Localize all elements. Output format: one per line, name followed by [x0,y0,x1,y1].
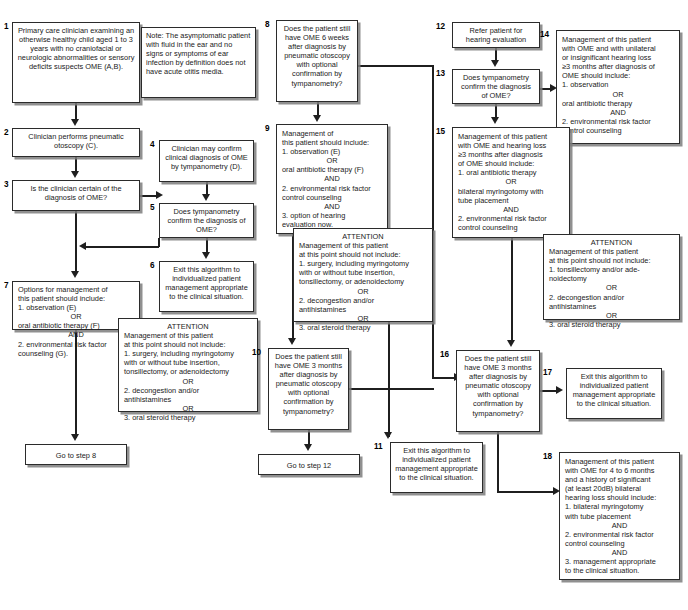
arrowhead-15-to-16 [507,340,515,347]
step-9-line: 2. environmental risk factor [282,184,371,193]
attention-left-line: tonsillectomy, or adenoidectomy [124,367,229,376]
box-number-9: 9 [265,124,270,133]
attention-right-line: 2. decongestion and/or [549,293,624,302]
attention-middle-line: Management of this patient [299,241,388,250]
step-18-line: AND [565,548,674,557]
box-number-14: 14 [540,30,549,39]
attention-left-line: at this point should not include: [124,340,225,349]
attention-right-line: ATTENTION [549,238,674,247]
step-15-line: bilateral myringotomy with [458,187,543,196]
step-18-line: AND [565,521,674,530]
step-15-line: tube placement [458,196,509,205]
connector-15-to-16 [511,238,513,343]
step-15-line: 1. oral antibiotic therapy [458,168,536,177]
box-number-10: 10 [252,348,261,357]
step-15-line: 2. environmental risk factor [458,214,547,223]
box-number-3: 3 [4,180,9,189]
step-13-box: Does tympanometry confirm the diagnosis … [452,69,540,104]
box-number-8: 8 [265,20,270,29]
step-9-line: AND [282,202,382,211]
flowchart-canvas: 1 Primary care clinician examining an ot… [0,0,688,610]
arrowhead-5-to-6 [202,252,210,259]
step-18-box: Management of this patient with OME for … [559,452,680,580]
step-14-line: oral antibiotic therapy [562,99,632,108]
step-12-box: Refer patient for hearing evaluation [452,22,540,48]
step-15-line: OR [458,177,564,186]
step-9-line: this patient should include: [282,138,369,147]
attention-right-line: at this point should not include: [549,256,650,265]
arrowhead-9-to-10 [288,338,296,345]
arrowhead-3-to-7 [71,271,79,278]
step-7-line: AND [18,330,134,339]
box-number-18: 18 [543,452,552,461]
step-18-line: 2. environmental risk factor [565,530,654,539]
step-9-line: control counseling [282,193,342,202]
arrowhead-16-to-17 [556,386,563,394]
attention-middle-line: antihistamines [299,305,346,314]
attention-middle-box: ATTENTION Management of this patient at … [293,228,433,322]
step-9-line: oral antibiotic therapy (F) [282,165,364,174]
step-15-line: ≥3 months after diagnosis [458,150,543,159]
connector-10-right [349,388,434,390]
step-15-line: with OME and hearing loss [458,141,546,150]
attention-left-line: with or without tube insertion, [124,358,220,367]
step-18-line: 3. management appropriate [565,557,656,566]
box-number-13: 13 [436,69,445,78]
connector-5-to-3 [85,246,159,248]
box-number-11: 11 [374,442,383,451]
arrowhead-5-to-3 [79,242,86,250]
attention-middle-line: 3. oral steroid therapy [299,323,370,332]
step-17-box: Exit this algorithm to individualized pa… [566,368,662,419]
connector-8-into-16 [432,377,456,379]
box-number-17: 17 [543,368,552,377]
step-9-line: OR [282,156,382,165]
connector-3-to-7 [75,211,77,274]
step-14-line: 2. environmental risk factor [562,117,651,126]
attention-left-line: 1. surgery, including myringotomy [124,349,234,358]
step-14-box: Management of this patient with OME and … [556,30,680,144]
step-14-line: control counseling [562,126,622,135]
arrowhead-to-11 [384,432,392,439]
step-18-line: to the clinical situation. [565,566,639,575]
go-to-step-8-box: Go to step 8 [25,444,127,465]
attention-left-line: 2. decongestion and/or [124,386,199,395]
attention-left-box: ATTENTION Management of this patient at … [118,318,258,412]
step-18-line: hearing loss should include: [565,493,656,502]
connector-5-down-stub [158,238,160,247]
step-3-box: Is the clinician certain of the diagnosi… [12,180,140,211]
attention-left-line: OR [124,377,252,386]
step-1-box: Primary care clinician examining an othe… [12,22,140,103]
step-9-line: AND [282,174,382,183]
step-14-line: Management of this patient [562,35,651,44]
attention-middle-line: with or without tube insertion, [299,268,395,277]
box-number-16: 16 [440,350,449,359]
arrowhead-10-to-goto12 [304,444,312,451]
arrowhead-1-to-2 [71,119,79,126]
step-14-line: OME should include: [562,71,630,80]
step-18-line: (at least 20dB) bilateral [565,484,641,493]
attention-right-line: 1. tonsillectomy and/or ade- [549,265,640,274]
step-9-line: 3. option of hearing [282,211,345,220]
box-number-1: 1 [4,22,9,31]
step-7-line: oral antibiotic therapy (F) [18,321,100,330]
step-7-line: 1. observation (E) [18,303,76,312]
attention-right-line: noidectomy [549,274,587,283]
box-number-7: 7 [4,281,9,290]
attention-right-line: OR [549,283,674,292]
step-15-line: AND [458,205,564,214]
step-6-box: Exit this algorithm to individualized pa… [159,261,254,312]
attention-left-line: antihistamines [124,395,171,404]
step-9-box: Management of this patient should includ… [276,124,388,234]
box-number-5: 5 [150,203,155,212]
step-14-line: OR [562,90,674,99]
step-18-line: control counseling [565,539,625,548]
attention-middle-line: OR [299,314,427,323]
attention-middle-line: 2. decongestion and/or [299,296,374,305]
step-8-box: Does the patient still have OME 6 weeks … [276,20,358,102]
step-15-box: Management of this patient with OME and … [452,127,570,238]
attention-left-line: ATTENTION [124,322,252,331]
step-18-line: 1. bilateral myringotomy [565,502,643,511]
step-7-line: counseling (G). [18,349,68,358]
arrowhead-12-to-13 [491,60,499,67]
attention-right-line: 3. oral steroid therapy [549,320,620,329]
